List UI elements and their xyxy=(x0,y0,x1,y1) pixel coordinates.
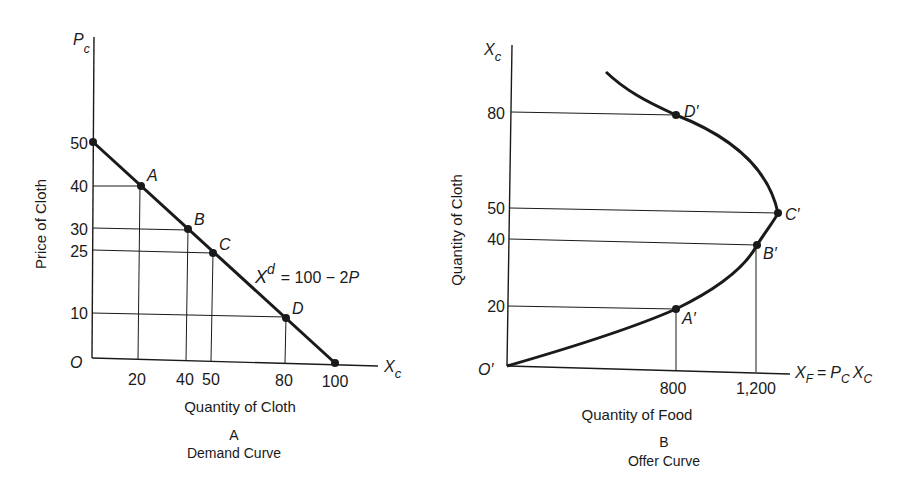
y-tick-40: 40 xyxy=(70,178,88,195)
x-axis-symbol: XF=PCXC xyxy=(794,364,872,386)
guide-line-10 xyxy=(92,313,286,317)
guide-line-80 xyxy=(511,112,676,115)
guide-line-x20 xyxy=(138,186,140,359)
panel-letter: B xyxy=(659,434,668,450)
panel-caption: Demand Curve xyxy=(187,445,281,461)
intercept-point-x xyxy=(331,359,339,367)
y-tick-40: 40 xyxy=(487,231,505,248)
y-tick-30: 30 xyxy=(70,221,88,238)
point-a-label: A xyxy=(146,167,158,184)
point-a-prime xyxy=(672,305,680,313)
point-d-prime xyxy=(672,111,680,119)
x-tick-40: 40 xyxy=(176,371,194,388)
panel-a-demand-curve: Pc Xc O A B C D Xd= 100 − 2P 50 40 30 25 xyxy=(32,31,402,461)
guide-line-20 xyxy=(508,306,676,309)
y-tick-50: 50 xyxy=(70,135,88,152)
y-axis xyxy=(507,45,512,366)
y-tick-50: 50 xyxy=(487,200,505,217)
origin-label: O xyxy=(70,354,82,371)
x-axis-symbol: Xc xyxy=(383,358,402,381)
y-tick-80: 80 xyxy=(487,105,505,122)
point-b-label: B xyxy=(194,211,205,228)
point-d-prime-label: D′ xyxy=(684,103,700,120)
y-axis-symbol: Pc xyxy=(73,31,90,56)
y-axis-symbol: Xc xyxy=(483,41,502,64)
x-tick-50: 50 xyxy=(202,371,220,388)
point-a-prime-label: A′ xyxy=(681,310,697,327)
guide-line-x80 xyxy=(285,317,286,363)
y-axis-label: Quantity of Cloth xyxy=(448,174,465,286)
guide-line-25 xyxy=(93,250,213,253)
panel-letter: A xyxy=(229,427,239,443)
panel-b-offer-curve: Xc XF=PCXC O′ D′ C′ B′ A′ 80 50 40 20 80… xyxy=(448,41,872,469)
x-axis-label: Quantity of Food xyxy=(582,406,693,423)
x-tick-800: 800 xyxy=(660,380,687,397)
guide-line-50 xyxy=(510,208,778,213)
x-tick-80: 80 xyxy=(275,372,293,389)
point-d-label: D xyxy=(292,300,304,317)
guide-line-40 xyxy=(509,239,757,245)
y-tick-10: 10 xyxy=(70,305,88,322)
x-tick-100: 100 xyxy=(322,373,349,390)
point-b-prime xyxy=(753,241,761,249)
figure-canvas: Pc Xc O A B C D Xd= 100 − 2P 50 40 30 25 xyxy=(0,0,905,499)
y-axis xyxy=(92,37,94,358)
point-c-prime-label: C′ xyxy=(785,206,801,223)
point-b xyxy=(184,225,192,233)
origin-label: O′ xyxy=(478,361,494,378)
y-tick-25: 25 xyxy=(70,243,88,260)
point-c xyxy=(209,249,217,257)
x-axis xyxy=(507,366,790,374)
offer-curve-line xyxy=(507,72,778,366)
y-tick-20: 20 xyxy=(487,298,505,315)
panel-caption: Offer Curve xyxy=(628,453,700,469)
intercept-point-y xyxy=(89,138,97,146)
x-axis-label: Quantity of Cloth xyxy=(184,398,296,415)
guide-line-x40 xyxy=(186,229,188,361)
x-tick-1200: 1,200 xyxy=(736,380,776,397)
point-a xyxy=(137,182,145,190)
guide-line-30 xyxy=(93,228,188,230)
demand-equation: Xd= 100 − 2P xyxy=(254,261,359,287)
guide-line-x50 xyxy=(211,253,213,361)
point-d xyxy=(282,314,290,322)
point-b-prime-label: B′ xyxy=(763,245,778,262)
point-c-label: C xyxy=(219,236,231,253)
point-c-prime xyxy=(774,209,782,217)
y-axis-label: Price of Cloth xyxy=(32,179,49,269)
x-tick-20: 20 xyxy=(128,371,146,388)
